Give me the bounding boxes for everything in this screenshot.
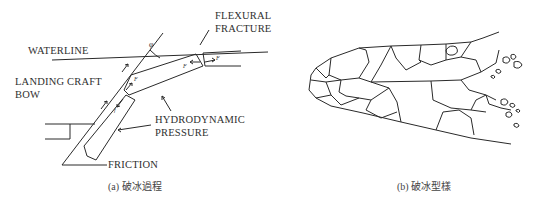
panel-icebreaking-pattern: (b) 破冰型樣 — [271, 0, 542, 205]
channel-lower-edge — [309, 75, 511, 144]
label-hydrodynamic: HYDRODYNAMIC — [155, 114, 245, 126]
force-symbol-bow: F — [134, 76, 138, 82]
label-bow: BOW — [15, 89, 40, 101]
angle-phi-symbol: φ — [149, 40, 153, 49]
fracture-line — [203, 53, 205, 66]
caption-a: (a) 破冰過程 — [108, 178, 162, 193]
icebreaking-pattern-drawing — [271, 0, 542, 205]
submerged-ice-piece — [84, 95, 135, 160]
label-pressure: PRESSURE — [155, 127, 209, 139]
force-symbol-right: F — [216, 55, 220, 61]
force-symbol-left: F — [183, 63, 187, 69]
label-waterline: WATERLINE — [28, 45, 89, 57]
caption-b: (b) 破冰型樣 — [397, 178, 451, 193]
friction-symbol: f — [114, 107, 116, 113]
panel-icebreaking-process: FLEXURAL FRACTURE WATERLINE LANDING CRAF… — [0, 0, 271, 205]
label-fracture: FRACTURE — [215, 23, 271, 35]
label-friction: FRICTION — [108, 159, 158, 171]
label-flexural: FLEXURAL — [215, 10, 271, 22]
label-landing-craft: LANDING CRAFT — [15, 76, 102, 88]
bending-ice-sheet — [124, 54, 203, 95]
